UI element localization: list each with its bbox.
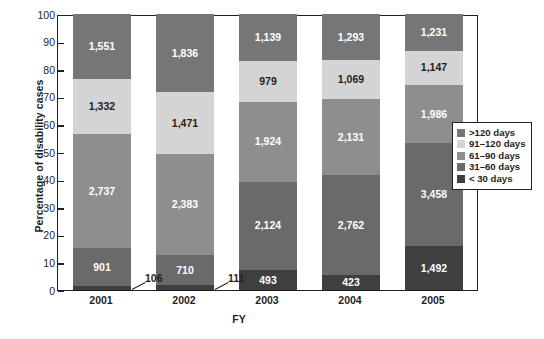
bar-segment-2003-31-60-days[interactable]: 2,124: [239, 182, 297, 270]
bar-segment-2004--120-days[interactable]: 1,293: [322, 14, 380, 60]
segment-value-label: 1,139: [255, 32, 281, 43]
x-axis-title: FY: [0, 313, 478, 325]
legend-label: 31–60 days: [469, 162, 520, 172]
y-tick-label: 0: [49, 285, 55, 297]
callout-label-111: 111: [228, 272, 244, 284]
y-tick-label: 10: [43, 257, 55, 269]
bar-segment-2005-91-120-days[interactable]: 1,147: [405, 51, 463, 85]
y-tick-mark: [58, 15, 64, 16]
bar-2004[interactable]: 4232,7622,1311,0691,293: [322, 14, 380, 290]
y-tick-mark: [58, 43, 64, 44]
bar-segment-2005--120-days[interactable]: 1,231: [405, 14, 463, 50]
y-tick-label: 20: [43, 229, 55, 241]
y-tick-mark: [58, 125, 64, 126]
chart-legend: >120 days91–120 days61–90 days31–60 days…: [452, 122, 532, 190]
segment-value-label: 1,836: [172, 48, 198, 59]
segment-value-label: 2,124: [255, 220, 281, 231]
y-tick-label: 80: [43, 64, 55, 76]
legend-label: 91–120 days: [469, 139, 526, 149]
bar-segment-2004-61-90-days[interactable]: 2,131: [322, 99, 380, 176]
bar-segment-2002--30-days[interactable]: [156, 285, 214, 290]
bar-segment-2001-91-120-days[interactable]: 1,332: [73, 79, 131, 134]
y-tick-label: 90: [43, 36, 55, 48]
y-tick-label: 100: [37, 9, 55, 21]
bar-segment-2004--30-days[interactable]: 423: [322, 275, 380, 290]
bar-segment-2001-61-90-days[interactable]: 2,737: [73, 134, 131, 248]
x-tick-label-2003: 2003: [238, 294, 296, 306]
segment-value-label: 1,332: [89, 101, 115, 112]
bar-segment-2003--120-days[interactable]: 1,139: [239, 14, 297, 61]
bar-segment-2003--30-days[interactable]: 493: [239, 270, 297, 290]
bar-segment-2005--30-days[interactable]: 1,492: [405, 246, 463, 290]
legend-swatch-icon: [457, 152, 465, 160]
segment-value-label: 1,231: [421, 27, 447, 38]
segment-value-label: 1,492: [421, 263, 447, 274]
segment-value-label: 1,147: [421, 62, 447, 73]
y-tick-mark: [58, 98, 64, 99]
y-tick-label: 60: [43, 119, 55, 131]
bar-segment-2001--30-days[interactable]: [73, 286, 131, 290]
bar-segment-2002-91-120-days[interactable]: 1,471: [156, 92, 214, 154]
legend-label: 61–90 days: [469, 151, 520, 161]
y-tick-mark: [58, 291, 64, 292]
x-tick-label-2001: 2001: [72, 294, 130, 306]
legend-swatch-icon: [457, 140, 465, 148]
bar-segment-2002-31-60-days[interactable]: 710: [156, 255, 214, 285]
y-tick-label: 50: [43, 147, 55, 159]
bar-segment-2001--120-days[interactable]: 1,551: [73, 14, 131, 79]
segment-value-label: 1,471: [172, 118, 198, 129]
bar-segment-2003-91-120-days[interactable]: 979: [239, 61, 297, 102]
callout-label-106: 106: [145, 272, 163, 284]
segment-value-label: 493: [259, 275, 277, 286]
segment-value-label: 2,737: [89, 186, 115, 197]
segment-value-label: 3,458: [421, 189, 447, 200]
legend-swatch-icon: [457, 175, 465, 183]
bar-2001[interactable]: 9012,7371,3321,551: [73, 14, 131, 290]
bar-segment-2004-91-120-days[interactable]: 1,069: [322, 60, 380, 98]
legend-swatch-icon: [457, 163, 465, 171]
segment-value-label: 710: [176, 265, 194, 276]
bar-2003[interactable]: 4932,1241,9249791,139: [239, 14, 297, 290]
x-tick-label-2004: 2004: [321, 294, 379, 306]
bar-segment-2002-61-90-days[interactable]: 2,383: [156, 154, 214, 255]
x-tick-label-2002: 2002: [155, 294, 213, 306]
segment-value-label: 2,383: [172, 199, 198, 210]
segment-value-label: 1,551: [89, 41, 115, 52]
bar-segment-2002--120-days[interactable]: 1,836: [156, 14, 214, 92]
y-tick-label: 30: [43, 202, 55, 214]
bar-segment-2001-31-60-days[interactable]: 901: [73, 248, 131, 286]
y-tick-mark: [58, 153, 64, 154]
segment-value-label: 423: [342, 277, 360, 288]
bar-2002[interactable]: 7102,3831,4711,836: [156, 14, 214, 290]
y-tick-mark: [58, 236, 64, 237]
callout-leader-line: [132, 282, 146, 290]
segment-value-label: 2,131: [338, 132, 364, 143]
segment-value-label: 1,293: [338, 32, 364, 43]
segment-value-label: 1,924: [255, 136, 281, 147]
legend-label: < 30 days: [469, 174, 512, 184]
legend-item-0[interactable]: >120 days: [457, 127, 526, 139]
plot-area: 10090807060504030201009012,7371,3321,551…: [57, 15, 478, 291]
y-tick-mark: [58, 181, 64, 182]
legend-label: >120 days: [469, 128, 515, 138]
segment-value-label: 979: [259, 76, 277, 87]
y-tick-label: 70: [43, 91, 55, 103]
x-tick-label-2005: 2005: [404, 294, 462, 306]
bar-segment-2004-31-60-days[interactable]: 2,762: [322, 175, 380, 274]
y-tick-mark: [58, 70, 64, 71]
callout-leader-line: [215, 282, 229, 290]
y-tick-mark: [58, 208, 64, 209]
legend-swatch-icon: [457, 129, 465, 137]
y-tick-mark: [58, 263, 64, 264]
segment-value-label: 901: [93, 262, 111, 273]
legend-item-3[interactable]: 31–60 days: [457, 162, 526, 174]
bar-segment-2003-61-90-days[interactable]: 1,924: [239, 102, 297, 182]
segment-value-label: 1,986: [421, 109, 447, 120]
legend-item-2[interactable]: 61–90 days: [457, 150, 526, 162]
legend-item-1[interactable]: 91–120 days: [457, 139, 526, 151]
stacked-bar-chart: Percentage of disability cases 100908070…: [0, 0, 544, 339]
legend-item-4[interactable]: < 30 days: [457, 173, 526, 185]
y-tick-label: 40: [43, 174, 55, 186]
segment-value-label: 2,762: [338, 220, 364, 231]
segment-value-label: 1,069: [338, 74, 364, 85]
